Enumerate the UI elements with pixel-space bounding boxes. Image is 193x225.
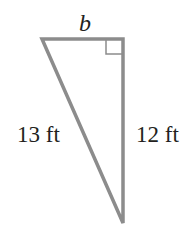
- vertical-side-label: 12 ft: [136, 122, 179, 147]
- right-angle-marker: [106, 39, 123, 54]
- side-b-label: b: [79, 10, 91, 36]
- triangle-diagram: b 13 ft 12 ft: [0, 0, 193, 225]
- hypotenuse-label: 13 ft: [17, 122, 60, 147]
